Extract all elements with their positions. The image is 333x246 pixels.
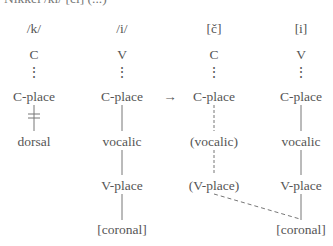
segment-i: /i/ (116, 21, 127, 37)
coronal-feature: [coronal] (97, 222, 146, 238)
dots: ⋮ (27, 65, 41, 81)
vocalic-node: vocalic (282, 134, 321, 150)
segment-i-output: [i] (295, 21, 308, 37)
coronal-feature: [coronal] (276, 222, 325, 238)
vocalic-node-optional: (vocalic) (190, 134, 238, 150)
dorsal-feature: dorsal (18, 134, 51, 150)
vocalic-node: vocalic (103, 134, 142, 150)
cplace-node: C-place (101, 89, 143, 105)
dots: ⋮ (294, 65, 308, 81)
cplace-node: C-place (280, 89, 322, 105)
segment-k: /k/ (27, 21, 41, 37)
root-node: V (296, 47, 306, 63)
dots: ⋮ (207, 65, 221, 81)
segment-c-hacek: [č] (207, 21, 222, 37)
vplace-node: V-place (101, 178, 142, 194)
cplace-node: C-place (13, 89, 55, 105)
vplace-node: V-place (280, 178, 321, 194)
dots: ⋮ (115, 65, 129, 81)
spreading-dashed-line (214, 194, 300, 219)
root-node: C (29, 47, 38, 63)
root-node: V (117, 47, 127, 63)
arrow-icon: → (163, 89, 177, 105)
vplace-node-optional: (V-place) (189, 178, 239, 194)
diagram-lines (0, 0, 333, 246)
root-node: C (209, 47, 218, 63)
cplace-node: C-place (193, 89, 235, 105)
